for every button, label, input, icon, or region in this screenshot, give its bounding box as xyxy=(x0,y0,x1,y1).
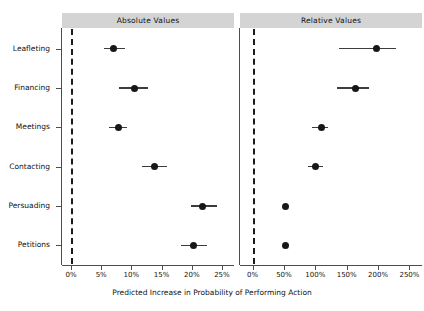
panel-strip-label: Absolute Values xyxy=(117,16,180,25)
panel-2-xtick-4 xyxy=(378,266,379,270)
category-tick-contacting xyxy=(56,167,61,168)
category-tick-petitions xyxy=(56,245,61,246)
panel-1-xticklabel-2: 10% xyxy=(116,271,146,279)
panel-1-point-petitions xyxy=(190,242,197,249)
panel-1-left-spine xyxy=(61,28,62,265)
panel-1-zero-reference-line xyxy=(71,29,73,264)
panel-1-xticklabel-4: 20% xyxy=(177,271,207,279)
panel-1-xtick-0 xyxy=(71,266,72,270)
panel-2-xticklabel-2: 100% xyxy=(300,271,330,279)
panel-2-xticklabel-5: 250% xyxy=(394,271,424,279)
panel-2-point-meetings xyxy=(318,124,325,131)
panel-1-point-meetings xyxy=(115,124,122,131)
panel-1-xticklabel-1: 5% xyxy=(86,271,116,279)
panel-strip-label: Relative Values xyxy=(301,16,361,25)
category-tick-meetings xyxy=(56,127,61,128)
panel-2-x-axis-line xyxy=(240,265,422,266)
forest-plot-figure: Absolute ValuesRelative Values0%5%10%15%… xyxy=(0,0,424,311)
panel-2-errorbar-leafleting xyxy=(339,48,396,49)
category-label-meetings: Meetings xyxy=(2,122,50,131)
panel-2-point-financing xyxy=(352,85,359,92)
category-tick-financing xyxy=(56,88,61,89)
panel-2-point-persuading xyxy=(282,203,289,210)
panel-1-point-leafleting xyxy=(110,45,117,52)
panel-strip-1: Absolute Values xyxy=(62,13,234,28)
category-label-leafleting: Leafleting xyxy=(2,44,50,53)
panel-2-point-petitions xyxy=(282,242,289,249)
panel-1-xticklabel-5: 25% xyxy=(207,271,237,279)
panel-2-xtick-3 xyxy=(347,266,348,270)
panel-2-xtick-1 xyxy=(284,266,285,270)
category-label-petitions: Petitions xyxy=(2,240,50,249)
category-label-financing: Financing xyxy=(2,83,50,92)
panel-2-zero-reference-line xyxy=(253,29,255,264)
category-tick-persuading xyxy=(56,206,61,207)
panel-1-xtick-4 xyxy=(192,266,193,270)
panel-1-xtick-2 xyxy=(131,266,132,270)
panel-2-xtick-5 xyxy=(409,266,410,270)
panel-2-point-leafleting xyxy=(373,45,380,52)
panel-1-xtick-1 xyxy=(101,266,102,270)
category-label-persuading: Persuading xyxy=(2,201,50,210)
category-tick-leafleting xyxy=(56,49,61,50)
panel-1-xtick-5 xyxy=(222,266,223,270)
panel-2-left-spine xyxy=(239,28,240,265)
panel-1-point-financing xyxy=(131,85,138,92)
panel-1-xticklabel-3: 15% xyxy=(147,271,177,279)
panel-1-point-contacting xyxy=(151,163,158,170)
panel-2-xtick-0 xyxy=(253,266,254,270)
panel-1-xticklabel-0: 0% xyxy=(56,271,86,279)
panel-2-xticklabel-4: 200% xyxy=(363,271,393,279)
panel-2-plot-area xyxy=(240,29,422,265)
panel-2-xtick-2 xyxy=(315,266,316,270)
panel-1-xtick-3 xyxy=(162,266,163,270)
x-axis-title: Predicted Increase in Probability of Per… xyxy=(60,288,364,297)
panel-1-plot-area xyxy=(62,29,234,265)
panel-2-xticklabel-3: 150% xyxy=(332,271,362,279)
category-label-contacting: Contacting xyxy=(2,162,50,171)
panel-2-xticklabel-1: 50% xyxy=(269,271,299,279)
panel-2-xticklabel-0: 0% xyxy=(238,271,268,279)
panel-1-point-persuading xyxy=(199,203,206,210)
panel-strip-2: Relative Values xyxy=(240,13,422,28)
panel-1-x-axis-line xyxy=(62,265,234,266)
